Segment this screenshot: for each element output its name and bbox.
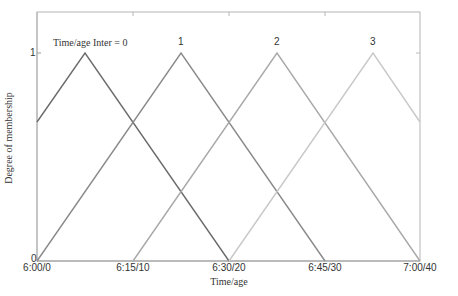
series-2-label: 2 — [274, 36, 280, 47]
series-1-label: 1 — [178, 36, 184, 47]
series-0-label: Time/age Inter = 0 — [53, 37, 127, 48]
series-0-line — [37, 53, 229, 261]
x-tick-label: 6:45/30 — [308, 262, 341, 273]
y-tick-label-1: 1 — [30, 47, 36, 58]
top-ticks — [133, 12, 325, 16]
series-1-line — [37, 53, 325, 261]
x-tick-label: 7:00/40 — [403, 262, 436, 273]
x-tick-label: 6:15/10 — [116, 262, 149, 273]
plot-frame — [37, 12, 420, 261]
series-3-line — [229, 53, 420, 261]
y-axis-title: Degree of membership — [3, 92, 14, 184]
series-2-line — [133, 53, 420, 261]
x-axis-title: Time/age — [210, 276, 247, 287]
series-3-label: 3 — [370, 36, 376, 47]
x-tick-label: 6:00/0 — [23, 262, 51, 273]
x-tick-label: 6:30/20 — [212, 262, 245, 273]
